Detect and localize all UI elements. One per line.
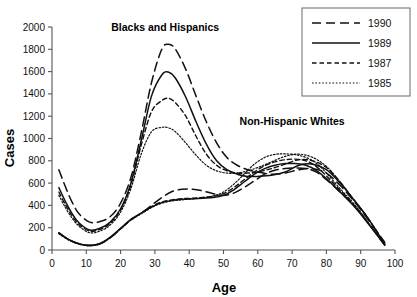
x-axis-tick-label: 10 xyxy=(81,258,93,269)
y-axis-tick-label: 200 xyxy=(28,222,45,233)
y-axis-title: Cases xyxy=(2,129,17,167)
annotation-non-hispanic-whites: Non-Hispanic Whites xyxy=(240,115,345,127)
x-axis-tick-label: 90 xyxy=(355,258,367,269)
annotation-blacks-and-hispanics: Blacks and Hispanics xyxy=(111,21,219,33)
x-axis-tick-label: 50 xyxy=(218,258,230,269)
y-axis-tick-label: 1600 xyxy=(23,66,46,77)
y-axis-tick-label: 2000 xyxy=(23,22,46,33)
y-axis-tick-label: 600 xyxy=(28,178,45,189)
x-axis-tick-label: 30 xyxy=(149,258,161,269)
x-axis-title: Age xyxy=(212,280,237,295)
y-axis-tick-label: 1200 xyxy=(23,111,46,122)
legend-label-1985[interactable]: 1985 xyxy=(368,77,392,89)
y-axis-tick-label: 0 xyxy=(39,245,45,256)
y-axis-tick-label: 400 xyxy=(28,200,45,211)
x-axis-tick-label: 20 xyxy=(115,258,127,269)
legend-label-1987[interactable]: 1987 xyxy=(368,57,392,69)
line-chart: 0200400600800100012001400160018002000 01… xyxy=(0,0,417,297)
x-axis-tick-label: 100 xyxy=(387,258,404,269)
x-axis-tick-label: 80 xyxy=(321,258,333,269)
y-axis-tick-label: 1400 xyxy=(23,88,46,99)
legend-label-1990[interactable]: 1990 xyxy=(368,17,392,29)
legend-label-1989[interactable]: 1989 xyxy=(368,37,392,49)
legend-box xyxy=(302,8,410,96)
x-axis-tick-label: 60 xyxy=(252,258,264,269)
y-axis-tick-label: 800 xyxy=(28,155,45,166)
y-axis-tick-label: 1000 xyxy=(23,133,46,144)
x-axis-tick-label: 70 xyxy=(287,258,299,269)
x-axis-tick-label: 40 xyxy=(184,258,196,269)
chart-figure: 0200400600800100012001400160018002000 01… xyxy=(0,0,417,297)
chart-legend[interactable]: 1990198919871985 xyxy=(302,8,410,96)
y-axis-tick-label: 1800 xyxy=(23,44,46,55)
x-axis-tick-label: 0 xyxy=(49,258,55,269)
